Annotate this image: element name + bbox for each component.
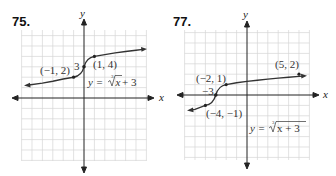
graph-75-panel: 75. x y bbox=[0, 0, 168, 176]
point-marker bbox=[214, 93, 218, 97]
point-label: (1, 4) bbox=[93, 58, 117, 71]
point-marker bbox=[82, 65, 86, 69]
svg-text:3: 3 bbox=[272, 120, 275, 125]
svg-text:+ 3: + 3 bbox=[122, 76, 137, 88]
point-label: (−1, 2) bbox=[40, 64, 70, 77]
svg-text:x + 3: x + 3 bbox=[277, 122, 300, 134]
svg-text:x: x bbox=[115, 76, 121, 88]
point-label: (−4, −1) bbox=[206, 107, 243, 120]
curve-left-arrow-icon bbox=[24, 83, 31, 88]
y-axis-label: y bbox=[242, 8, 248, 20]
point-marker bbox=[72, 76, 75, 79]
y-axis-label: y bbox=[79, 7, 85, 19]
equation-label: y = 3 x + 3 bbox=[249, 120, 306, 134]
point-label: (−2, 1) bbox=[196, 72, 226, 85]
point-label: (5, 2) bbox=[275, 58, 299, 71]
curve-left-arrow-icon bbox=[187, 108, 194, 113]
intercept-label: −3 bbox=[202, 85, 214, 97]
graph-77: x y (−2, 1) −3 (−4, −1) (5, 2) y = 3 x +… bbox=[168, 0, 336, 176]
svg-text:y =: y = bbox=[87, 76, 103, 88]
x-axis-label: x bbox=[158, 91, 164, 103]
graph-77-panel: 77. x y bbox=[168, 0, 336, 176]
equation-label: y = 3 x + 3 bbox=[87, 74, 137, 88]
graph-75: x y (−1, 2) 3 (1, 4) y = 3 x + 3 bbox=[0, 0, 168, 176]
svg-text:3: 3 bbox=[111, 74, 114, 79]
intercept-label: 3 bbox=[74, 60, 80, 72]
svg-text:y =: y = bbox=[249, 122, 265, 134]
point-marker bbox=[297, 73, 300, 76]
x-axis-label: x bbox=[322, 88, 328, 100]
